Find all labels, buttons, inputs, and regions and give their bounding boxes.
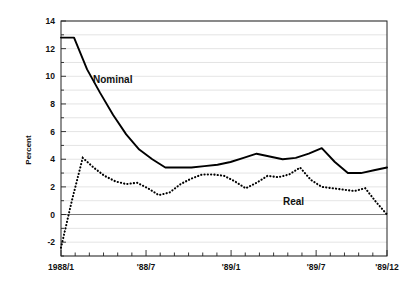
y-tick-label: 6 bbox=[50, 127, 55, 137]
series-label-real: Real bbox=[283, 196, 304, 207]
x-tick-label: '89/12 bbox=[375, 262, 399, 272]
chart-background bbox=[0, 0, 417, 286]
y-tick-label: 14 bbox=[46, 16, 56, 26]
y-tick-label: 0 bbox=[50, 210, 55, 220]
x-tick-label: '89/7 bbox=[307, 262, 326, 272]
x-tick-label: '89/1 bbox=[222, 262, 241, 272]
y-tick-label: 4 bbox=[50, 154, 55, 164]
y-tick-label: 12 bbox=[46, 44, 56, 54]
y-tick-label: 10 bbox=[46, 71, 56, 81]
x-tick-label: 1988/1 bbox=[48, 262, 74, 272]
chart-container: 14121086420-2 1988/1'88/7'89/1'89/7'89/1… bbox=[0, 0, 417, 286]
x-tick-label: '88/7 bbox=[137, 262, 156, 272]
y-tick-label: 8 bbox=[50, 99, 55, 109]
y-axis-title: Percent bbox=[24, 135, 33, 165]
line-chart: 14121086420-2 1988/1'88/7'89/1'89/7'89/1… bbox=[0, 0, 417, 286]
y-tick-label: -2 bbox=[47, 237, 55, 247]
y-tick-label: 2 bbox=[50, 182, 55, 192]
series-label-nominal: Nominal bbox=[93, 74, 133, 85]
